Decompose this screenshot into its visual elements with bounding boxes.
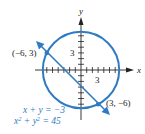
equation-line: x + y = −3	[22, 105, 65, 115]
point-label-1: (−6, 3)	[12, 48, 37, 58]
intersection-point-1	[45, 51, 50, 56]
x-axis-label: x	[136, 65, 141, 75]
y-axis-arrow-icon	[79, 17, 84, 25]
point-label-2: (3, −6)	[106, 98, 131, 108]
equation-circle: x2 + y2 = 45	[13, 115, 61, 126]
x-axis-arrow-icon	[126, 68, 134, 73]
y-axis-label: y	[78, 6, 83, 16]
graph: y x 3 3 (−6, 3) (3, −6) x + y = −3 x2 + …	[0, 0, 145, 134]
intersection-point-2	[96, 102, 101, 107]
y-tick-label: 3	[70, 48, 75, 58]
x-tick-label: 3	[95, 75, 100, 85]
